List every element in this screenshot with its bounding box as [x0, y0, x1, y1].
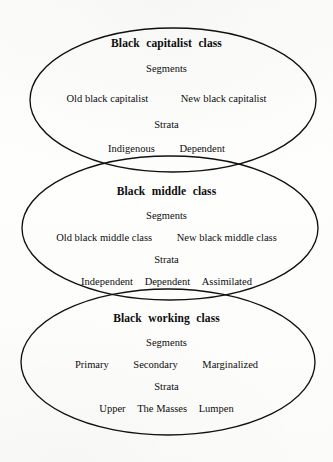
segment-item: New black middle class: [177, 233, 277, 244]
strata-item: Dependent: [145, 277, 190, 288]
strata-item: Lumpen: [199, 404, 234, 415]
strata-item: The Masses: [137, 404, 187, 415]
class-title-working: Black working class: [0, 313, 333, 325]
segments-heading-working: Segments: [0, 338, 333, 349]
class-structure-diagram: Black capitalist class Segments Old blac…: [0, 0, 333, 462]
segment-item: Marginalized: [202, 360, 258, 371]
strata-heading-working: Strata: [0, 382, 333, 393]
strata-item: Indigenous: [108, 144, 155, 155]
segment-item: Old black capitalist: [67, 94, 149, 105]
strata-item: Independent: [81, 277, 133, 288]
strata-item: Upper: [99, 404, 125, 415]
segments-row-working: Primary Secondary Marginalized: [0, 360, 333, 371]
strata-item: Assimilated: [202, 277, 252, 288]
strata-row-capitalist: Indigenous Dependent: [0, 144, 333, 155]
segments-row-middle: Old black middle class New black middle …: [0, 233, 333, 244]
segment-item: New black capitalist: [181, 94, 267, 105]
strata-row-working: Upper The Masses Lumpen: [0, 404, 333, 415]
segments-heading-middle: Segments: [0, 211, 333, 222]
class-title-middle: Black middle class: [0, 186, 333, 198]
segments-heading-capitalist: Segments: [0, 64, 333, 75]
segments-row-capitalist: Old black capitalist New black capitalis…: [0, 94, 333, 105]
class-title-capitalist: Black capitalist class: [0, 38, 333, 50]
segment-item: Primary: [75, 360, 109, 371]
strata-row-middle: Independent Dependent Assimilated: [0, 277, 333, 288]
segment-item: Old black middle class: [56, 233, 152, 244]
strata-heading-capitalist: Strata: [0, 120, 333, 131]
strata-heading-middle: Strata: [0, 255, 333, 266]
segment-item: Secondary: [133, 360, 177, 371]
strata-item: Dependent: [179, 144, 224, 155]
